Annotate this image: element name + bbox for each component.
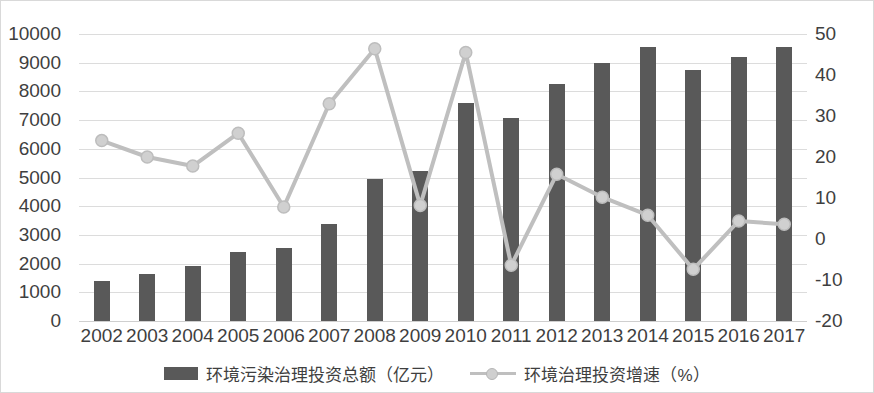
y-axis-right-tick: 20 bbox=[815, 146, 867, 168]
x-axis-tick: 2014 bbox=[627, 325, 669, 347]
line-marker bbox=[687, 263, 699, 275]
bar-swatch-icon bbox=[164, 367, 198, 380]
y-axis-left-tick: 5000 bbox=[0, 167, 61, 189]
y-axis-right-tick: 0 bbox=[815, 228, 867, 250]
x-axis-tick: 2011 bbox=[491, 325, 532, 347]
y-axis-left-tick: 8000 bbox=[0, 80, 61, 102]
x-axis-tick: 2003 bbox=[126, 325, 168, 347]
y-axis-right-tick: 40 bbox=[815, 64, 867, 86]
line-marker bbox=[778, 218, 790, 230]
line-marker bbox=[460, 46, 472, 58]
y-axis-right-tick: 50 bbox=[815, 23, 867, 45]
x-axis-tick: 2008 bbox=[354, 325, 396, 347]
legend-item-bar: 环境污染治理投资总额（亿元） bbox=[164, 361, 444, 386]
x-axis-tick: 2015 bbox=[672, 325, 714, 347]
line-marker bbox=[369, 43, 381, 55]
y-axis-left-tick: 2000 bbox=[0, 253, 61, 275]
chart-legend: 环境污染治理投资总额（亿元） 环境治理投资增速（%） bbox=[1, 361, 873, 386]
y-axis-right-tick: -10 bbox=[815, 269, 867, 291]
y-axis-left-tick: 1000 bbox=[0, 281, 61, 303]
line-marker bbox=[187, 160, 199, 172]
line-marker bbox=[733, 215, 745, 227]
x-axis-tick: 2005 bbox=[217, 325, 259, 347]
plot-area bbox=[79, 34, 807, 321]
line-marker bbox=[505, 259, 517, 271]
legend-label-bar: 环境污染治理投资总额（亿元） bbox=[206, 361, 444, 386]
line-marker-swatch-icon bbox=[470, 367, 516, 380]
x-axis-tick: 2013 bbox=[581, 325, 623, 347]
x-axis-tick: 2007 bbox=[308, 325, 350, 347]
y-axis-right-tick: 30 bbox=[815, 105, 867, 127]
x-axis-tick: 2009 bbox=[399, 325, 441, 347]
y-axis-right-tick: 10 bbox=[815, 187, 867, 209]
x-axis-tick: 2006 bbox=[263, 325, 305, 347]
legend-label-line: 环境治理投资增速（%） bbox=[524, 361, 709, 386]
y-axis-left-tick: 9000 bbox=[0, 52, 61, 74]
line-series bbox=[79, 34, 807, 321]
y-axis-left-tick: 7000 bbox=[0, 109, 61, 131]
line-path bbox=[102, 49, 785, 270]
line-marker bbox=[232, 127, 244, 139]
y-axis-left-tick: 6000 bbox=[0, 138, 61, 160]
line-marker bbox=[642, 209, 654, 221]
x-axis-tick: 2016 bbox=[718, 325, 760, 347]
y-axis-right-tick: -20 bbox=[815, 310, 867, 332]
x-axis-tick: 2010 bbox=[445, 325, 487, 347]
line-marker bbox=[596, 191, 608, 203]
line-marker bbox=[278, 201, 290, 213]
x-axis-tick: 2002 bbox=[81, 325, 123, 347]
x-axis-tick: 2004 bbox=[172, 325, 214, 347]
legend-item-line: 环境治理投资增速（%） bbox=[470, 361, 709, 386]
chart-container: 0100020003000400050006000700080009000100… bbox=[0, 0, 874, 393]
y-axis-left-tick: 10000 bbox=[0, 23, 61, 45]
y-axis-left-tick: 0 bbox=[0, 310, 61, 332]
x-axis-tick: 2017 bbox=[763, 325, 805, 347]
gridline bbox=[79, 321, 807, 322]
line-marker bbox=[96, 135, 108, 147]
line-marker bbox=[323, 98, 335, 110]
line-marker bbox=[551, 168, 563, 180]
y-axis-left-tick: 4000 bbox=[0, 195, 61, 217]
y-axis-left-tick: 3000 bbox=[0, 224, 61, 246]
x-axis-tick: 2012 bbox=[536, 325, 578, 347]
line-marker bbox=[414, 199, 426, 211]
line-marker bbox=[141, 151, 153, 163]
